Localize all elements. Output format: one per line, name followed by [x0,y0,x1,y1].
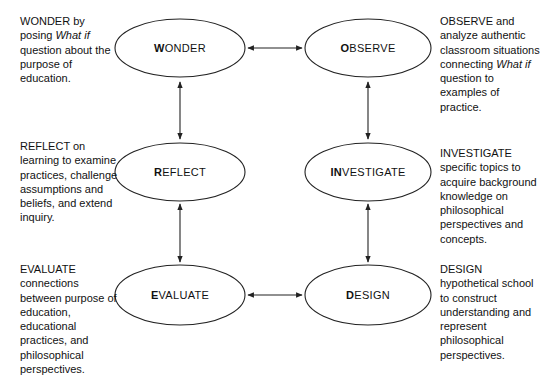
description-segment: REFLECT on learning to examine practices… [20,140,117,223]
node-label-rest-evaluate: VALUATE [159,289,210,301]
description-reflect-desc: REFLECT on learning to examine practices… [20,139,118,225]
node-label-initial-evaluate: E [151,289,159,301]
description-segment: What if [55,29,89,41]
node-label-rest-wonder: ONDER [165,42,206,54]
node-label-rest-design: ESIGN [354,289,390,301]
node-label-initial-observe: O [340,42,349,54]
description-investigate-desc: INVESTIGATE specific topics to acquire b… [440,146,543,246]
description-segment: INVESTIGATE specific topics to acquire b… [440,147,537,245]
node-label-observe: OBSERVE [340,42,395,54]
description-segment: question about the purpose of education. [20,44,111,85]
diagram-canvas: WONDEROBSERVEREFLECTINVESTIGATEEVALUATED… [0,0,551,381]
node-label-reflect: REFLECT [154,166,206,178]
description-evaluate-desc: EVALUATE connections between purpose of … [20,262,120,376]
node-label-initial-wonder: W [154,42,165,54]
node-label-investigate: INVESTIGATE [330,166,405,178]
node-label-design: DESIGN [346,289,390,301]
node-label-rest-investigate: VESTIGATE [342,166,406,178]
description-segment: question to examples of practice. [440,72,499,113]
node-label-rest-reflect: EFLECT [162,166,206,178]
node-label-wonder: WONDER [154,42,206,54]
description-design-desc: DESIGN hypothetical school to construct … [440,262,543,362]
description-segment: What if [496,58,530,70]
node-label-initial-investigate: IN [330,166,342,178]
description-segment: EVALUATE connections between purpose of … [20,263,117,375]
description-observe-desc: OBSERVE and analyze authentic classroom … [440,14,543,114]
node-label-evaluate: EVALUATE [151,289,209,301]
node-label-rest-observe: BSERVE [349,42,395,54]
description-wonder-desc: WONDER by posing What if question about … [20,14,116,85]
description-segment: DESIGN hypothetical school to construct … [440,263,534,361]
